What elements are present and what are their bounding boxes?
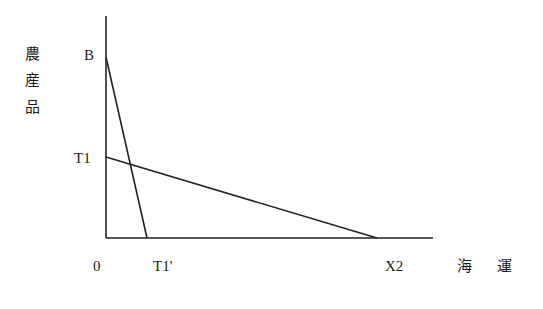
- origin-label: 0: [93, 258, 101, 274]
- point-label-x2: X2: [385, 258, 403, 274]
- y-axis-label-char-1: 農: [25, 45, 40, 63]
- line-b-t1prime: [106, 57, 147, 238]
- point-label-b: B: [84, 47, 94, 63]
- y-axis-label-char-2: 産: [25, 71, 40, 89]
- x-axis-label-char-2: 運: [497, 257, 512, 275]
- point-label-t1: T1: [74, 150, 91, 166]
- line-t1-x2: [106, 157, 377, 238]
- diagram: 農 産 品 B T1 0 T1' X2 海 運: [0, 0, 543, 309]
- y-axis-label-char-3: 品: [25, 98, 40, 116]
- x-axis-label-char-1: 海: [457, 257, 472, 275]
- point-label-t1-prime: T1': [153, 258, 173, 274]
